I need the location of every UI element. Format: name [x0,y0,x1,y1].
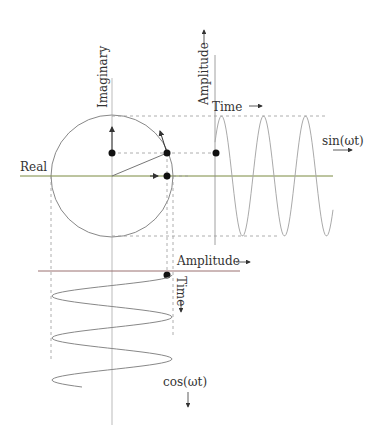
cos-label: cos(ωt) [163,375,207,389]
amplitude-top-label: Amplitude [197,42,211,106]
phasor-vector [112,153,167,176]
sin-label: sin(ωt) [322,134,364,148]
amplitude-bottom-label: Amplitude [176,254,240,268]
time-top-label: Time [212,100,242,114]
imaginary-label: Imaginary [96,46,110,108]
diagram-canvas: Imaginary Real Amplitude Time sin(ωt) Am… [0,0,380,425]
phasor-diagram: Imaginary Real Amplitude Time sin(ωt) Am… [0,0,380,425]
real-label: Real [20,160,47,174]
guide-lines [51,116,327,360]
time-bottom-label: Time [174,276,188,306]
